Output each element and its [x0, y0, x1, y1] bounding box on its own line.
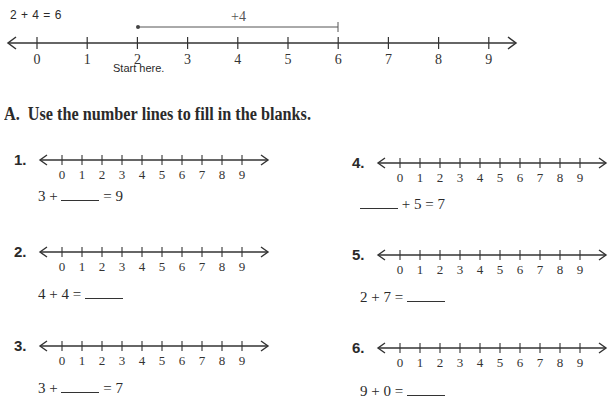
svg-text:0: 0 [397, 262, 404, 277]
svg-text:9: 9 [239, 259, 246, 274]
svg-text:7: 7 [385, 52, 392, 67]
equation-text: = 7 [99, 380, 122, 396]
svg-text:8: 8 [219, 259, 226, 274]
answer-blank[interactable] [61, 380, 99, 393]
equation: 3 + = 9 [38, 188, 123, 205]
equation-text: 9 + 0 = [360, 383, 407, 399]
svg-text:3: 3 [457, 170, 464, 185]
svg-text:1: 1 [84, 52, 91, 67]
svg-text:3: 3 [119, 353, 126, 368]
svg-text:7: 7 [199, 259, 206, 274]
svg-text:0: 0 [34, 52, 41, 67]
svg-text:8: 8 [219, 167, 226, 182]
svg-text:9: 9 [577, 355, 584, 370]
svg-text:9: 9 [577, 262, 584, 277]
svg-text:9: 9 [577, 170, 584, 185]
answer-blank[interactable] [407, 289, 445, 302]
svg-text:9: 9 [485, 52, 492, 67]
svg-text:2: 2 [437, 262, 444, 277]
answer-blank[interactable] [61, 188, 99, 201]
svg-text:4: 4 [477, 355, 484, 370]
svg-text:6: 6 [517, 170, 524, 185]
equation-text: 3 + [38, 380, 61, 396]
svg-text:0: 0 [59, 167, 66, 182]
svg-text:3: 3 [457, 355, 464, 370]
equation: 4 + 4 = [38, 286, 123, 303]
svg-text:5: 5 [159, 353, 166, 368]
equation: 2 + 7 = [360, 289, 445, 306]
svg-text:8: 8 [435, 52, 442, 67]
svg-text:1: 1 [79, 167, 86, 182]
number-line: 0123456789 [376, 245, 612, 279]
svg-text:0: 0 [397, 355, 404, 370]
equation-text: 3 + [38, 188, 61, 204]
svg-text:1: 1 [79, 259, 86, 274]
svg-text:6: 6 [179, 353, 186, 368]
svg-text:1: 1 [417, 355, 424, 370]
answer-blank[interactable] [360, 196, 398, 209]
svg-text:7: 7 [537, 355, 544, 370]
equation-text: 2 + 7 = [360, 289, 407, 305]
equation: 9 + 0 = [360, 383, 445, 400]
number-line: 0123456789 [38, 336, 278, 370]
svg-text:2: 2 [437, 355, 444, 370]
svg-text:8: 8 [219, 353, 226, 368]
svg-text:9: 9 [239, 167, 246, 182]
svg-text:3: 3 [184, 52, 191, 67]
svg-text:3: 3 [457, 262, 464, 277]
problem-number: 4. [352, 154, 365, 171]
svg-text:4: 4 [139, 167, 146, 182]
svg-text:1: 1 [79, 353, 86, 368]
svg-text:0: 0 [59, 353, 66, 368]
svg-text:6: 6 [335, 52, 342, 67]
svg-text:4: 4 [139, 353, 146, 368]
svg-text:3: 3 [119, 167, 126, 182]
svg-text:9: 9 [239, 353, 246, 368]
equation: 3 + = 7 [38, 380, 123, 397]
svg-text:0: 0 [397, 170, 404, 185]
answer-blank[interactable] [407, 383, 445, 396]
problem-number: 3. [14, 337, 27, 354]
equation-text: = 9 [99, 188, 122, 204]
svg-text:8: 8 [557, 355, 564, 370]
svg-text:5: 5 [497, 170, 504, 185]
answer-blank[interactable] [85, 286, 123, 299]
equation-text: + 5 = 7 [398, 196, 445, 212]
svg-text:3: 3 [119, 259, 126, 274]
problem-number: 5. [352, 246, 365, 263]
problem-number: 2. [14, 243, 27, 260]
equation-text: 4 + 4 = [38, 286, 85, 302]
svg-text:5: 5 [497, 262, 504, 277]
svg-text:5: 5 [497, 355, 504, 370]
svg-text:6: 6 [517, 262, 524, 277]
svg-text:6: 6 [179, 167, 186, 182]
start-label: Start here. [113, 62, 164, 74]
section-heading: A. Use the number lines to fill in the b… [4, 104, 311, 125]
svg-text:5: 5 [159, 259, 166, 274]
number-line: 0123456789 [376, 338, 612, 372]
svg-text:8: 8 [557, 262, 564, 277]
svg-text:1: 1 [417, 262, 424, 277]
svg-text:6: 6 [179, 259, 186, 274]
number-line: 0123456789 [38, 242, 278, 276]
svg-text:7: 7 [537, 262, 544, 277]
equation: + 5 = 7 [360, 196, 445, 213]
problem-number: 1. [14, 151, 27, 168]
svg-text:7: 7 [199, 167, 206, 182]
svg-text:6: 6 [517, 355, 524, 370]
example-number-line: 0123456789 [0, 0, 604, 80]
svg-text:0: 0 [59, 259, 66, 274]
svg-text:4: 4 [477, 262, 484, 277]
number-line: 0123456789 [38, 150, 278, 184]
svg-text:5: 5 [159, 167, 166, 182]
svg-text:4: 4 [477, 170, 484, 185]
svg-text:1: 1 [417, 170, 424, 185]
number-line: 0123456789 [376, 153, 612, 187]
svg-text:8: 8 [557, 170, 564, 185]
svg-text:7: 7 [537, 170, 544, 185]
svg-text:2: 2 [99, 167, 106, 182]
svg-text:5: 5 [285, 52, 292, 67]
problem-number: 6. [352, 339, 365, 356]
svg-text:2: 2 [99, 353, 106, 368]
svg-text:4: 4 [234, 52, 241, 67]
